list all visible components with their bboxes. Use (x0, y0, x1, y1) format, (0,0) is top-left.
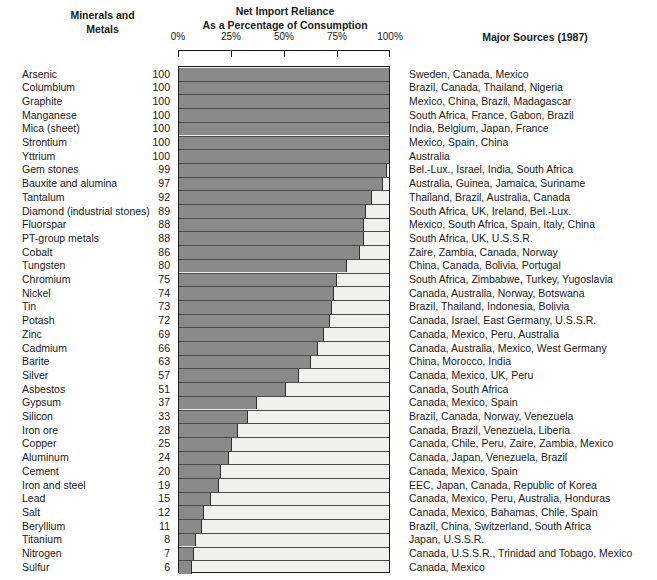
mineral-name: Lead (22, 493, 45, 504)
x-axis-tick (178, 50, 179, 57)
reliance-value: 72 (108, 315, 170, 326)
bar (179, 260, 347, 273)
bar (179, 274, 337, 287)
x-axis-tick-label: 25% (211, 31, 251, 42)
bar (179, 561, 192, 574)
mineral-name: Tungsten (22, 260, 65, 271)
bar (179, 411, 248, 424)
bar (179, 548, 194, 561)
mineral-name: Columbium (22, 82, 75, 93)
x-axis-rule (178, 50, 390, 57)
bar (179, 342, 318, 355)
x-axis-tick (284, 50, 285, 57)
row-separator (179, 533, 389, 534)
major-sources-value: Canada, Mexico, Peru, Australia, Hondura… (409, 493, 610, 504)
bar (179, 150, 389, 163)
bar (179, 191, 372, 204)
mineral-name: Nitrogen (22, 548, 62, 559)
bar (179, 369, 299, 382)
bar (179, 178, 383, 191)
reliance-value: 88 (108, 219, 170, 230)
mineral-name: Manganese (22, 110, 77, 121)
reliance-value: 99 (108, 164, 170, 175)
row-separator (179, 505, 389, 506)
mineral-name: Arsenic (22, 69, 57, 80)
reliance-value: 11 (108, 521, 170, 532)
mineral-name: Nickel (22, 288, 51, 299)
x-axis-tick-labels: 0%25%50%75%100% (178, 31, 390, 44)
chart-title-line2: As a Percentage of Consumption (202, 19, 367, 31)
mineral-name: Mica (sheet) (22, 123, 80, 134)
major-sources-value: Canada, Mexico, UK, Peru (409, 370, 533, 381)
reliance-value: 15 (108, 493, 170, 504)
bar (179, 82, 389, 95)
bar (179, 493, 211, 506)
major-sources-value: Canada, Mexico, Spain (409, 466, 518, 477)
major-sources-value: Canada, Mexico, Peru, Australia (409, 329, 559, 340)
x-axis-tick-label: 75% (317, 31, 357, 42)
column-header-minerals: Minerals and Metals (40, 8, 165, 36)
mineral-name: Iron and steel (22, 480, 86, 491)
major-sources-value: EEC, Japan, Canada, Republic of Korea (409, 480, 597, 491)
major-sources-value: Canada, South Africa (409, 384, 508, 395)
mineral-name: Beryllium (22, 521, 65, 532)
major-sources-value: Brazil, China, Switzerland, South Africa (409, 521, 591, 532)
bar (179, 123, 389, 136)
chart-title: Net Import Reliance As a Percentage of C… (170, 5, 400, 32)
major-sources-value: Canada, U.S.S.R., Trinidad and Tobago, M… (409, 548, 632, 559)
x-axis-tick (389, 50, 390, 57)
reliance-value: 75 (108, 274, 170, 285)
reliance-value: 69 (108, 329, 170, 340)
reliance-value: 6 (108, 562, 170, 573)
major-sources-value: Brazil, Thailand, Indonesia, Bolivia (409, 301, 569, 312)
major-sources-value: Japan, U.S.S.R. (409, 534, 484, 545)
reliance-value: 100 (108, 96, 170, 107)
major-sources-value: Canada, Israel, East Germany, U.S.S.R. (409, 315, 596, 326)
mineral-name: Silver (22, 370, 48, 381)
reliance-value: 89 (108, 206, 170, 217)
major-sources-value: Canada, Japan, Venezuela, Brazil (409, 452, 567, 463)
major-sources-value: Thailand, Brazil, Australia, Canada (409, 192, 570, 203)
major-sources-value: Australia (409, 151, 450, 162)
major-sources-value: Bel.-Lux., Israel, India, South Africa (409, 164, 573, 175)
mineral-name: Zinc (22, 329, 42, 340)
bar (179, 287, 334, 300)
x-axis-tick-label: 0% (158, 31, 198, 42)
bar (179, 328, 324, 341)
column-header-minerals-line2: Metals (40, 22, 165, 36)
reliance-value: 63 (108, 356, 170, 367)
mineral-name: Silicon (22, 411, 53, 422)
reliance-value: 33 (108, 411, 170, 422)
reliance-value: 86 (108, 247, 170, 258)
major-sources-value: Canada, Australia, Norway, Botswana (409, 288, 584, 299)
major-sources-value: Mexico, South Africa, Spain, Italy, Chin… (409, 219, 595, 230)
row-separator (179, 519, 389, 520)
reliance-value: 100 (108, 69, 170, 80)
major-sources-value: Mexico, China, Brazil, Madagascar (409, 96, 571, 107)
mineral-name: Cadmium (22, 343, 67, 354)
reliance-value: 7 (108, 548, 170, 559)
reliance-value: 19 (108, 480, 170, 491)
x-axis-tick-label: 100% (370, 31, 410, 42)
mineral-name: Yttrium (22, 151, 55, 162)
reliance-value: 25 (108, 438, 170, 449)
bar (179, 356, 311, 369)
reliance-value: 74 (108, 288, 170, 299)
major-sources-value: Australia, Guinea, Jamaica, Suriname (409, 178, 585, 189)
bar (179, 397, 257, 410)
mineral-name: Titanium (22, 534, 62, 545)
reliance-value: 20 (108, 466, 170, 477)
mineral-name: PT-group metals (22, 233, 99, 244)
reliance-value: 28 (108, 425, 170, 436)
bar (179, 219, 364, 232)
bar (179, 315, 330, 328)
bar (179, 68, 389, 81)
bar (179, 137, 389, 150)
major-sources-value: South Africa, UK, U.S.S.R. (409, 233, 533, 244)
chart-title-line1: Net Import Reliance (236, 5, 335, 17)
bar (179, 479, 219, 492)
reliance-value: 92 (108, 192, 170, 203)
mineral-name: Graphite (22, 96, 62, 107)
row-separator (179, 547, 389, 548)
bar (179, 424, 238, 437)
